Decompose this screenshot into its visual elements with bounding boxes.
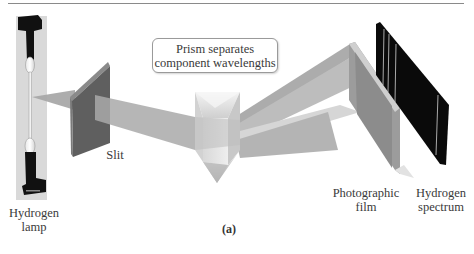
label-spectrum-line-2: spectrum — [412, 200, 470, 214]
hydrogen-lamp — [16, 15, 47, 200]
label-slit: Slit — [100, 148, 130, 162]
prism — [195, 92, 240, 183]
label-hydrogen-lamp: Hydrogen lamp — [6, 206, 62, 234]
label-lamp-line-2: lamp — [6, 220, 62, 234]
callout-line-2: component wavelengths — [153, 56, 277, 70]
label-spectrum-line-1: Hydrogen — [412, 186, 470, 200]
label-lamp-line-1: Hydrogen — [6, 206, 62, 220]
figure-caption: (a) — [222, 222, 236, 237]
callout-line-1: Prism separates — [153, 42, 277, 56]
label-film-line-1: Photographic — [330, 186, 402, 200]
label-photographic-film: Photographic film — [330, 186, 402, 214]
label-hydrogen-spectrum: Hydrogen spectrum — [412, 186, 470, 214]
prism-callout: Prism separates component wavelengths — [152, 38, 278, 73]
label-slit-line-1: Slit — [100, 148, 130, 162]
label-film-line-2: film — [330, 200, 402, 214]
